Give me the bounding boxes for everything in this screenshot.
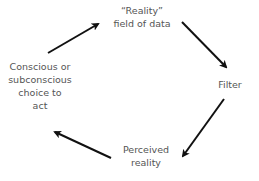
node-choice-line-2: subconscious bbox=[2, 73, 78, 86]
node-filter-line-1: Filter bbox=[210, 78, 250, 91]
node-reality-field-of-data: “Reality” field of data bbox=[104, 4, 180, 30]
node-perceived-line-2: reality bbox=[118, 156, 174, 169]
node-choice-line-1: Conscious or bbox=[2, 60, 78, 73]
node-perceived-reality: Perceived reality bbox=[118, 143, 174, 169]
node-filter: Filter bbox=[210, 78, 250, 91]
arrow-filter-to-perceived bbox=[183, 99, 224, 156]
node-choice-line-4: act bbox=[2, 99, 78, 112]
node-choice-line-3: choice to bbox=[2, 86, 78, 99]
arrow-reality-to-filter bbox=[182, 22, 226, 67]
node-reality-line-2: field of data bbox=[104, 17, 180, 30]
arrow-perceived-to-choice bbox=[55, 132, 111, 158]
node-conscious-choice: Conscious or subconscious choice to act bbox=[2, 60, 78, 112]
node-perceived-line-1: Perceived bbox=[118, 143, 174, 156]
arrow-choice-to-reality bbox=[48, 24, 98, 53]
node-reality-line-1: “Reality” bbox=[104, 4, 180, 17]
